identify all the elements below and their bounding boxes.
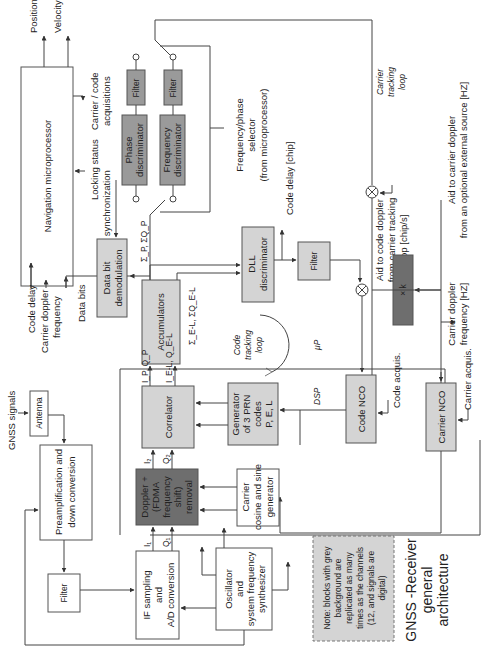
svg-text:A/D conversion: A/D conversion bbox=[165, 563, 176, 627]
svg-text:Code: Code bbox=[232, 335, 242, 356]
svg-text:Filter: Filter bbox=[309, 251, 319, 270]
svg-text:frequency [HZ]: frequency [HZ] bbox=[458, 283, 469, 345]
data-bit-demodulation-block: Data bit demodulation bbox=[97, 239, 127, 317]
svg-text:loop: loop bbox=[254, 337, 264, 353]
svg-text:acquisitions: acquisitions bbox=[101, 76, 112, 126]
svg-text:Note: blocks with grey: Note: blocks with grey bbox=[322, 546, 332, 630]
svg-text:I_E-L, Q_E-L: I_E-L, Q_E-L bbox=[164, 333, 174, 383]
bit-sync-label: Bit synchronization bbox=[101, 170, 112, 250]
data-bits-label: Data bits bbox=[76, 284, 87, 322]
svg-text:synthesizer: synthesizer bbox=[256, 565, 267, 613]
svg-text:Carrier / code: Carrier / code bbox=[89, 72, 100, 130]
svg-text:Navigation microprocessor: Navigation microprocessor bbox=[42, 120, 53, 232]
svg-text:times as the channels: times as the channels bbox=[355, 547, 365, 629]
svg-text:Antenna: Antenna bbox=[34, 397, 44, 429]
dll-discriminator-block: DLL discriminator bbox=[242, 227, 274, 302]
svg-text:Frequency/phase: Frequency/phase bbox=[234, 98, 245, 171]
svg-text:Filter: Filter bbox=[131, 78, 141, 97]
svg-text:IF sampling: IF sampling bbox=[141, 570, 152, 619]
phase-filter-block: Filter bbox=[127, 70, 145, 105]
svg-text:Doppler +: Doppler + bbox=[139, 476, 150, 518]
gnss-receiver-diagram: Navigation microprocessor Position Veloc… bbox=[0, 0, 489, 651]
gnss-signals-label: GNSS signals bbox=[6, 391, 17, 450]
svg-text:frequency: frequency bbox=[51, 296, 62, 338]
oscillator-block: Oscillator and system frequency synthesi… bbox=[216, 548, 272, 630]
svg-text:Carrier NCO: Carrier NCO bbox=[436, 391, 447, 444]
navigation-microprocessor-block: Navigation microprocessor bbox=[21, 67, 73, 286]
svg-text:Carrier: Carrier bbox=[375, 68, 385, 95]
svg-text:demodulation: demodulation bbox=[113, 249, 124, 306]
svg-text:generator: generator bbox=[264, 477, 275, 518]
note-box: Note: blocks with grey background are re… bbox=[313, 536, 394, 641]
svg-text:and: and bbox=[234, 581, 245, 597]
position-label: Position bbox=[28, 0, 39, 33]
svg-text:frequency: frequency bbox=[161, 476, 172, 518]
svg-text:background are: background are bbox=[333, 558, 343, 617]
phase-discriminator-block: Phase discriminator bbox=[122, 115, 147, 185]
svg-text:shift): shift) bbox=[172, 487, 183, 508]
svg-text:Q₁: Q₁ bbox=[161, 537, 171, 547]
correlator-block: Correlator bbox=[142, 386, 194, 448]
svg-text:P, E, L: P, E, L bbox=[263, 400, 274, 427]
svg-text:tracking: tracking bbox=[386, 67, 396, 97]
dll-filter-block: Filter bbox=[298, 242, 330, 280]
code-nco-block: Code NCO bbox=[346, 375, 376, 443]
svg-text:Σ_P, ΣQ_P: Σ_P, ΣQ_P bbox=[139, 220, 149, 262]
svg-text:system frequency: system frequency bbox=[245, 552, 256, 627]
svg-text:Preamplification and: Preamplification and bbox=[53, 449, 64, 535]
code-acquis-label: Code acquis. bbox=[391, 353, 402, 408]
svg-text:Carrier doppler: Carrier doppler bbox=[39, 290, 50, 353]
dsp-label: DSP bbox=[312, 387, 322, 405]
svg-text:tracking: tracking bbox=[243, 330, 253, 360]
svg-text:Filter: Filter bbox=[168, 78, 178, 97]
svg-text:(12, and signals are: (12, and signals are bbox=[366, 550, 376, 625]
svg-text:DLL: DLL bbox=[246, 255, 257, 272]
svg-text:of 3 PRN: of 3 PRN bbox=[241, 395, 252, 434]
carrier-nco-block: Carrier NCO bbox=[426, 383, 456, 451]
locking-status-label: Locking status bbox=[89, 139, 100, 200]
svg-text:(FDMA: (FDMA bbox=[150, 481, 161, 512]
svg-text:(from microprocessor): (from microprocessor) bbox=[258, 89, 269, 182]
preamplification-block: Preamplification and down conversion bbox=[40, 445, 92, 540]
carrier-acquis-label: Carrier acquis. bbox=[462, 348, 473, 410]
svg-text:codes: codes bbox=[252, 401, 263, 427]
svg-text:general: general bbox=[419, 567, 435, 614]
svg-text:Carrier doppler: Carrier doppler bbox=[446, 282, 457, 345]
svg-text:removal: removal bbox=[183, 480, 194, 514]
velocity-label: Velocity bbox=[52, 0, 63, 33]
output-switch bbox=[155, 40, 170, 55]
code-delay-label: Code delay bbox=[26, 285, 37, 333]
diagram-title: GNSS -Receiver general architecture bbox=[403, 538, 451, 642]
input-switch bbox=[150, 200, 165, 215]
antenna-block: Antenna bbox=[30, 391, 48, 436]
svg-text:I₂: I₂ bbox=[142, 458, 152, 464]
svg-text:Code NCO: Code NCO bbox=[356, 386, 367, 432]
svg-text:loop: loop bbox=[397, 74, 407, 90]
frequency-discriminator-block: Frequency discriminator bbox=[160, 115, 185, 185]
svg-text:Phase: Phase bbox=[123, 137, 134, 164]
rf-filter-block: Filter bbox=[48, 574, 80, 612]
svg-text:digital): digital) bbox=[377, 575, 387, 600]
svg-text:discriminator: discriminator bbox=[134, 123, 145, 177]
svg-text:Generator: Generator bbox=[230, 393, 241, 436]
prn-generator-block: Generator of 3 PRN codes P, E, L bbox=[228, 383, 278, 445]
frequency-filter-block: Filter bbox=[164, 70, 182, 105]
svg-text:Filter: Filter bbox=[59, 583, 69, 602]
svg-text:discriminator: discriminator bbox=[172, 123, 183, 177]
svg-text:Aid to carrier doppler: Aid to carrier doppler bbox=[446, 116, 457, 204]
svg-text:Frequency: Frequency bbox=[161, 127, 172, 172]
svg-text:down conversion: down conversion bbox=[66, 456, 77, 527]
svg-text:Data bit: Data bit bbox=[101, 261, 112, 294]
svg-text:replicated as many: replicated as many bbox=[344, 552, 354, 624]
svg-text:discriminator: discriminator bbox=[258, 237, 269, 291]
mu-p-label: μP bbox=[312, 339, 322, 351]
svg-text:from an optional external sour: from an optional external source [HZ] bbox=[458, 82, 469, 238]
svg-text:Q₂: Q₂ bbox=[161, 454, 171, 464]
svg-text:Correlator: Correlator bbox=[163, 396, 174, 438]
doppler-removal-block: Doppler + (FDMA frequency shift) removal bbox=[136, 469, 198, 525]
nav-micro-label: Navigation microprocessor bbox=[42, 120, 53, 232]
carrier-generator-block: Carrier cosine and sine generator bbox=[237, 464, 279, 530]
svg-text:GNSS -Receiver: GNSS -Receiver bbox=[403, 538, 419, 642]
svg-text:and: and bbox=[153, 587, 164, 603]
code-delay-chip-label: Code delay [chip] bbox=[284, 142, 295, 215]
